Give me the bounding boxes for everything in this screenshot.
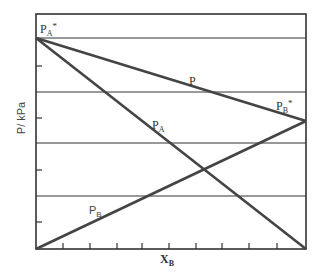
chart: PA* PB* P PA PB XB P/ kPa	[0, 0, 323, 279]
series-p-total	[36, 38, 306, 121]
pb-star-label: PB*	[276, 98, 293, 115]
x-axis-label: XB	[160, 252, 175, 268]
p-total-label: P	[189, 74, 196, 88]
pa-label: PA	[152, 118, 165, 134]
y-axis-label: P/ kPa	[15, 101, 27, 134]
x-ticks	[63, 243, 277, 249]
series-pb	[36, 121, 306, 249]
grid-lines	[36, 38, 306, 196]
pa-star-label: PA*	[40, 21, 57, 38]
pb-label: PB	[89, 204, 102, 219]
y-ticks	[36, 66, 42, 222]
